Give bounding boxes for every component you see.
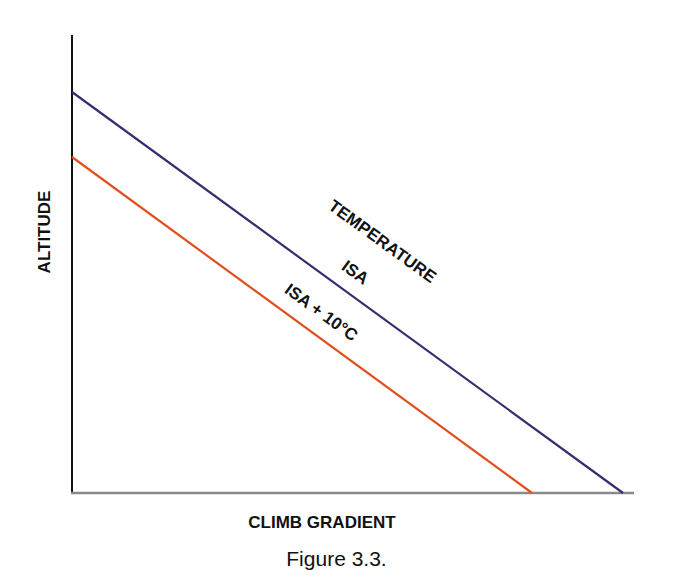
isa-label: ISA: [338, 257, 372, 289]
x-axis-label: CLIMB GRADIENT: [248, 513, 396, 532]
isa-plus-10-label: ISA + 10°C: [281, 280, 361, 345]
isa-plus-10-line: [72, 157, 532, 493]
figure-caption: Figure 3.3.: [0, 547, 673, 571]
isa-line: [72, 92, 623, 493]
y-axis-label: ALTITUDE: [35, 191, 54, 274]
chart: ALTITUDE CLIMB GRADIENT TEMPERATURE ISA …: [0, 0, 673, 575]
